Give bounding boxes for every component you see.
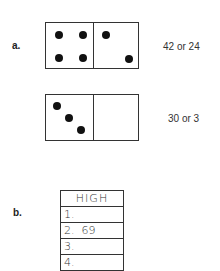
table-row: 2. 69	[61, 223, 123, 239]
pip	[77, 126, 85, 134]
table-row: 3.	[61, 239, 123, 255]
domino-1	[45, 22, 139, 69]
domino-divider	[93, 23, 94, 68]
pip	[55, 54, 63, 62]
table-header: HIGH	[61, 191, 123, 207]
part-a-label: a.	[12, 40, 20, 51]
pip	[65, 114, 73, 122]
pip	[79, 54, 87, 62]
table-row: 4.	[61, 255, 123, 271]
pip	[125, 55, 133, 63]
pip	[55, 31, 63, 39]
table-row: 1.	[61, 207, 123, 223]
domino-2-answer: 30 or 3	[168, 113, 199, 124]
high-score-table: HIGH 1. 2. 69 3. 4.	[60, 190, 124, 271]
part-b-label: b.	[13, 207, 22, 218]
domino-2	[45, 94, 139, 141]
pip	[53, 102, 61, 110]
pip	[79, 31, 87, 39]
domino-1-answer: 42 or 24	[163, 41, 200, 52]
domino-divider	[93, 95, 94, 140]
pip	[102, 31, 110, 39]
